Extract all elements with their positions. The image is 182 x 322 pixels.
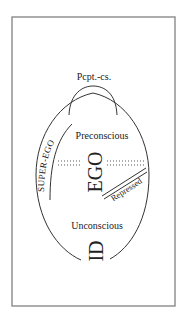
label-super-ego: SUPER-EGO	[36, 138, 57, 192]
label-ego: EGO	[84, 151, 106, 192]
label-preconscious: Preconscious	[76, 130, 129, 141]
perception-cap-arc	[69, 86, 117, 115]
super-ego-boundary-arc	[50, 124, 72, 200]
label-perception-consciousness: Pcpt.-cs.	[77, 71, 111, 82]
label-id: ID	[85, 240, 107, 261]
label-unconscious: Unconscious	[71, 220, 123, 231]
label-repressed: Repressed	[109, 175, 144, 203]
psyche-diagram: Pcpt.-cs. SUPER-EGO Preconscious EGO Rep…	[0, 0, 182, 322]
